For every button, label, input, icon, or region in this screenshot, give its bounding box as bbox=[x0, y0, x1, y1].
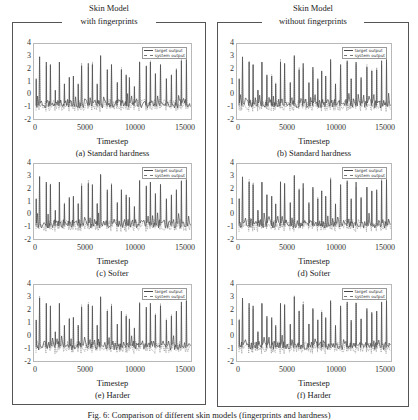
y-tick-label: 2 bbox=[222, 184, 234, 193]
y-tick-label: -1 bbox=[19, 222, 31, 231]
x-tick-label: 5000 bbox=[67, 123, 103, 132]
target-output-line bbox=[239, 56, 390, 109]
y-tick-label: 0 bbox=[19, 331, 31, 340]
y-tick-label: 4 bbox=[19, 279, 31, 288]
x-tick-label: 10000 bbox=[318, 365, 354, 374]
x-tick-label: 15000 bbox=[367, 365, 403, 374]
y-tick-label: 2 bbox=[19, 184, 31, 193]
panel-caption-c: (c) Softer bbox=[33, 268, 192, 278]
y-tick-label: -1 bbox=[19, 102, 31, 111]
legend-label: system output bbox=[155, 53, 185, 58]
panel-caption-b: (b) Standard hardness bbox=[236, 148, 392, 158]
plot-area-d: target outputsystem output bbox=[236, 163, 392, 240]
x-tick-label: 10000 bbox=[117, 123, 153, 132]
solid-line-swatch bbox=[144, 50, 153, 51]
target-output-line bbox=[36, 297, 190, 350]
x-tick-label: 10000 bbox=[117, 243, 153, 252]
column-title-line2: with fingerprints bbox=[62, 15, 156, 28]
panel-caption-d: (d) Softer bbox=[236, 268, 392, 278]
y-tick-label: 0 bbox=[19, 209, 31, 218]
legend-item-system: system output bbox=[344, 53, 385, 58]
x-tick-label: 5000 bbox=[269, 243, 305, 252]
legend: target outputsystem output bbox=[142, 167, 187, 179]
x-tick-label: 15000 bbox=[367, 243, 403, 252]
y-tick-label: -1 bbox=[222, 344, 234, 353]
x-tick-label: 0 bbox=[17, 365, 53, 374]
x-axis-label: Timestep bbox=[33, 136, 192, 146]
legend: target outputsystem output bbox=[342, 167, 387, 179]
y-tick-label: 0 bbox=[19, 89, 31, 98]
x-axis-label: Timestep bbox=[236, 256, 392, 266]
y-tick-label: -1 bbox=[222, 102, 234, 111]
y-tick-label: 3 bbox=[222, 292, 234, 301]
legend-item-system: system output bbox=[144, 53, 185, 58]
target-output-line bbox=[239, 176, 390, 229]
legend-item-system: system output bbox=[144, 173, 185, 178]
legend: target outputsystem output bbox=[342, 288, 387, 300]
target-output-line bbox=[239, 297, 390, 350]
solid-line-swatch bbox=[344, 50, 353, 51]
x-tick-label: 15000 bbox=[367, 123, 403, 132]
solid-line-swatch bbox=[144, 291, 153, 292]
x-axis-label: Timestep bbox=[236, 378, 392, 388]
column-title-without-fingerprints: Skin Model without fingerprints bbox=[262, 2, 364, 28]
legend-item-system: system output bbox=[344, 173, 385, 178]
y-tick-label: 1 bbox=[19, 318, 31, 327]
x-tick-label: 15000 bbox=[167, 123, 203, 132]
legend-label: system output bbox=[355, 294, 385, 299]
y-tick-label: 1 bbox=[222, 318, 234, 327]
column-title-line2: without fingerprints bbox=[262, 15, 364, 28]
panel-caption-e: (e) Harder bbox=[33, 390, 192, 400]
plot-area-b: target outputsystem output bbox=[236, 43, 392, 120]
y-tick-label: 1 bbox=[19, 77, 31, 86]
x-tick-label: 0 bbox=[17, 123, 53, 132]
x-tick-label: 15000 bbox=[167, 365, 203, 374]
legend-label: system output bbox=[355, 173, 385, 178]
dashed-line-swatch bbox=[144, 55, 153, 56]
x-tick-label: 10000 bbox=[318, 123, 354, 132]
plot-area-c: target outputsystem output bbox=[33, 163, 192, 240]
target-output-line bbox=[36, 56, 190, 109]
dashed-line-swatch bbox=[344, 175, 353, 176]
x-tick-label: 5000 bbox=[67, 243, 103, 252]
legend: target outputsystem output bbox=[342, 47, 387, 59]
plot-area-a: target outputsystem output bbox=[33, 43, 192, 120]
legend-item-system: system output bbox=[344, 294, 385, 299]
y-tick-label: 3 bbox=[222, 171, 234, 180]
y-tick-label: 3 bbox=[19, 292, 31, 301]
y-tick-label: 1 bbox=[222, 197, 234, 206]
y-tick-label: 4 bbox=[222, 279, 234, 288]
y-tick-label: 3 bbox=[19, 171, 31, 180]
y-tick-label: 0 bbox=[222, 209, 234, 218]
y-tick-label: 0 bbox=[222, 89, 234, 98]
legend-label: system output bbox=[155, 294, 185, 299]
x-tick-label: 15000 bbox=[167, 243, 203, 252]
y-tick-label: 2 bbox=[19, 305, 31, 314]
solid-line-swatch bbox=[344, 291, 353, 292]
x-axis-label: Timestep bbox=[236, 136, 392, 146]
solid-line-swatch bbox=[144, 170, 153, 171]
legend: target outputsystem output bbox=[142, 47, 187, 59]
dashed-line-swatch bbox=[344, 296, 353, 297]
legend: target outputsystem output bbox=[142, 288, 187, 300]
y-tick-label: 2 bbox=[19, 64, 31, 73]
solid-line-swatch bbox=[344, 170, 353, 171]
dashed-line-swatch bbox=[144, 296, 153, 297]
column-title-with-fingerprints: Skin Model with fingerprints bbox=[62, 2, 156, 28]
dashed-line-swatch bbox=[344, 55, 353, 56]
legend-label: system output bbox=[355, 53, 385, 58]
figure-caption: Fig. 6: Comparison of different skin mod… bbox=[0, 410, 418, 420]
y-tick-label: 1 bbox=[19, 197, 31, 206]
y-tick-label: 2 bbox=[222, 64, 234, 73]
plot-area-f: target outputsystem output bbox=[236, 284, 392, 362]
target-output-line bbox=[36, 174, 190, 228]
x-tick-label: 5000 bbox=[269, 365, 305, 374]
x-axis-label: Timestep bbox=[33, 256, 192, 266]
x-tick-label: 10000 bbox=[318, 243, 354, 252]
plot-area-e: target outputsystem output bbox=[33, 284, 192, 362]
y-tick-label: 4 bbox=[222, 38, 234, 47]
column-title-line1: Skin Model bbox=[62, 2, 156, 15]
y-tick-label: 4 bbox=[19, 38, 31, 47]
dashed-line-swatch bbox=[144, 175, 153, 176]
x-tick-label: 0 bbox=[220, 243, 256, 252]
